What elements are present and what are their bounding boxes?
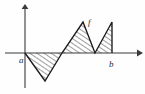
y-axis-arrow-icon (22, 4, 29, 9)
function-graph-svg: f a b (0, 0, 145, 94)
region-negative-lobe (25, 53, 62, 81)
figure-canvas: f a b (0, 0, 145, 94)
x-axis-arrow-icon (137, 50, 143, 57)
label-b: b (109, 59, 114, 69)
label-f: f (88, 17, 92, 27)
label-a: a (19, 55, 24, 65)
